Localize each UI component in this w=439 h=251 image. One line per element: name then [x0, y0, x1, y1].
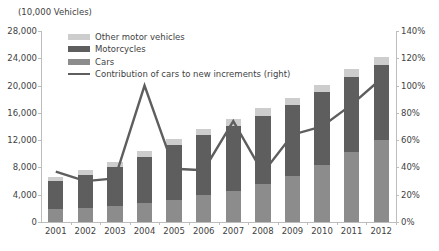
bar-2003 [107, 162, 122, 222]
left-tick-mark [38, 222, 41, 223]
bar-2012 [374, 57, 389, 222]
left-tick-mark [38, 86, 41, 87]
legend-swatch-other-icon [68, 34, 90, 40]
right-tick-mark [396, 167, 399, 168]
legend-item-cars: Cars [68, 56, 290, 67]
chart-legend: Other motor vehicles Motorcycles Cars Co… [68, 31, 290, 81]
x-tick-mark [189, 222, 190, 225]
bar-segment-motorcycles [137, 157, 152, 203]
bar-segment-cars [374, 140, 389, 222]
bar-segment-other [255, 108, 270, 115]
right-tick-mark [396, 195, 399, 196]
bar-segment-cars [48, 209, 63, 222]
bar-segment-other [137, 151, 152, 157]
bar-segment-other [374, 57, 389, 66]
x-label-2008: 2008 [252, 226, 274, 236]
right-tick-mark [396, 140, 399, 141]
x-tick-mark [159, 222, 160, 225]
x-label-2002: 2002 [75, 226, 97, 236]
right-tick-label: 40% [401, 162, 420, 172]
bar-2009 [285, 98, 300, 222]
left-tick-mark [38, 140, 41, 141]
x-label-2001: 2001 [45, 226, 67, 236]
x-label-2005: 2005 [163, 226, 185, 236]
x-tick-mark [248, 222, 249, 225]
legend-label-other: Other motor vehicles [95, 32, 185, 42]
right-tick-label: 0% [401, 217, 415, 227]
bar-segment-other [48, 177, 63, 182]
right-tick-mark [396, 86, 399, 87]
x-tick-mark [396, 222, 397, 225]
x-label-2010: 2010 [311, 226, 333, 236]
bar-2007 [226, 119, 241, 222]
bar-segment-other [166, 139, 181, 145]
x-label-2006: 2006 [193, 226, 215, 236]
x-label-2012: 2012 [370, 226, 392, 236]
bar-2004 [137, 151, 152, 222]
bar-2010 [314, 85, 329, 222]
bar-2011 [344, 69, 359, 222]
x-tick-mark [219, 222, 220, 225]
left-tick-label: 20,000 [7, 81, 37, 91]
bar-segment-cars [196, 195, 211, 222]
bar-segment-cars [78, 208, 93, 222]
x-label-2003: 2003 [104, 226, 126, 236]
left-tick-label: 8,000 [13, 162, 37, 172]
bar-segment-other [107, 162, 122, 167]
bar-2005 [166, 139, 181, 222]
left-tick-label: 12,000 [7, 135, 37, 145]
right-tick-mark [396, 31, 399, 32]
x-label-2007: 2007 [222, 226, 244, 236]
bar-segment-motorcycles [48, 181, 63, 209]
legend-item-other-motor-vehicles: Other motor vehicles [68, 31, 290, 42]
bar-segment-other [226, 119, 241, 126]
bar-segment-cars [255, 184, 270, 222]
left-tick-mark [38, 31, 41, 32]
bar-segment-motorcycles [374, 65, 389, 140]
contribution-line-path [56, 79, 381, 181]
bar-segment-motorcycles [107, 167, 122, 206]
x-label-2009: 2009 [282, 226, 304, 236]
right-tick-label: 60% [401, 135, 420, 145]
legend-label-cars: Cars [95, 57, 114, 67]
bar-segment-motorcycles [285, 105, 300, 175]
bar-segment-cars [226, 191, 241, 222]
x-tick-mark [337, 222, 338, 225]
left-tick-label: 24,000 [7, 53, 37, 63]
x-tick-mark [130, 222, 131, 225]
bar-segment-cars [285, 176, 300, 222]
x-tick-mark [307, 222, 308, 225]
x-tick-mark [100, 222, 101, 225]
bar-2006 [196, 129, 211, 222]
bar-segment-cars [344, 152, 359, 222]
legend-swatch-cars-icon [68, 59, 90, 65]
x-tick-mark [71, 222, 72, 225]
bar-segment-cars [314, 165, 329, 222]
legend-swatch-line-icon [68, 73, 90, 76]
x-label-2004: 2004 [134, 226, 156, 236]
legend-swatch-motorcycles-icon [68, 46, 90, 52]
right-tick-mark [396, 58, 399, 59]
left-tick-label: 0 [32, 217, 37, 227]
legend-item-motorcycles: Motorcycles [68, 44, 290, 55]
left-tick-mark [38, 58, 41, 59]
right-tick-label: 80% [401, 108, 420, 118]
bar-segment-motorcycles [196, 135, 211, 195]
bar-segment-motorcycles [226, 126, 241, 191]
legend-label-motorcycles: Motorcycles [95, 44, 146, 54]
bar-2001 [48, 177, 63, 222]
bar-segment-cars [137, 203, 152, 222]
bar-2008 [255, 108, 270, 222]
right-tick-mark [396, 113, 399, 114]
x-label-2011: 2011 [341, 226, 363, 236]
bar-segment-motorcycles [78, 175, 93, 208]
bar-segment-other [285, 98, 300, 106]
legend-item-contribution: Contribution of cars to new increments (… [68, 69, 290, 80]
left-tick-mark [38, 195, 41, 196]
bar-segment-motorcycles [255, 116, 270, 184]
right-tick-label: 140% [401, 26, 425, 36]
left-tick-mark [38, 113, 41, 114]
bar-segment-motorcycles [344, 77, 359, 152]
x-tick-mark [278, 222, 279, 225]
left-tick-label: 28,000 [7, 26, 37, 36]
